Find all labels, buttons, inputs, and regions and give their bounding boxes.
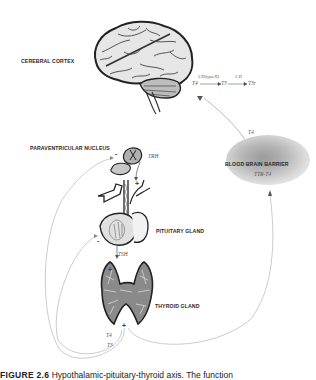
- label-pituitary-gland: PITUITARY GLAND: [156, 228, 204, 234]
- tsh-label: TSH: [118, 251, 128, 257]
- label-thyroid-gland: THYROID GLAND: [155, 303, 200, 309]
- trh-arrow: [136, 162, 140, 178]
- conversion-t4: T4: [192, 80, 198, 86]
- bbb-to-brain-arrow: [204, 98, 249, 146]
- pvn-negative-sign: -: [115, 150, 117, 157]
- label-blood-brain-barrier: BLOOD BRAIN BARRIER: [225, 161, 289, 167]
- figure-caption: FIGURE 2.6 Hypothalamic-pituitary-thyroi…: [0, 370, 233, 380]
- tsh-positive-sign: +: [108, 266, 112, 273]
- blood-brain-barrier-cloud: [226, 135, 310, 185]
- figure-number: FIGURE 2.6: [0, 370, 49, 380]
- label-paraventricular-nucleus: PARAVENTRICULAR NUCLEUS: [30, 145, 110, 151]
- brain-icon: [95, 22, 192, 114]
- t4-t3-feedback-to-pvn: [45, 158, 124, 358]
- pituitary-negative-sign: -: [97, 237, 99, 244]
- pituitary-icon: [98, 180, 150, 245]
- t3-thyroid-label: T3: [107, 342, 113, 348]
- enzyme-2-label: 5 D: [235, 74, 242, 79]
- label-cerebral-cortex: CEREBRAL CORTEX: [21, 58, 74, 64]
- trh-positive-sign: +: [135, 180, 139, 187]
- arrowhead-icon: [197, 96, 203, 101]
- enzyme-1-label: 5'D(type II): [198, 74, 219, 79]
- thyroid-positive-sign: +: [122, 322, 126, 329]
- trh-label: TRH: [148, 153, 158, 159]
- conversion-t3: T3: [221, 80, 227, 86]
- t4-thyroid-label: T4: [106, 332, 112, 338]
- conversion-t3r: T3r: [248, 80, 256, 86]
- t4-to-brain-label: T4: [248, 129, 254, 135]
- caption-text: Hypothalamic-pituitary-thyroid axis. The…: [52, 370, 233, 380]
- ttr-t4-label: TTR-T4: [254, 171, 271, 177]
